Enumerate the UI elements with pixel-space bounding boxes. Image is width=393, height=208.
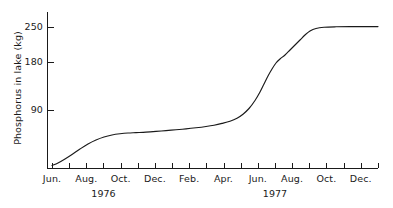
y-tick-label: 90 [31, 105, 43, 115]
y-tick-label: 250 [25, 22, 43, 32]
x-tick-label: Aug. [75, 174, 97, 184]
x-axis-year-label: 1977 [263, 189, 287, 199]
y-axis-ticks [48, 27, 54, 110]
x-tick-label: Jun. [249, 174, 267, 184]
x-tick-label: Dec. [350, 174, 372, 184]
phosphorus-chart: Phosphorus in lake (kg) 90180250 Jun.Aug… [0, 0, 393, 208]
x-axis-year-label: 1976 [91, 189, 115, 199]
x-tick-label: Feb. [179, 174, 199, 184]
x-tick-label: Jun. [43, 174, 61, 184]
x-tick-label: Dec. [144, 174, 166, 184]
x-tick-label: Oct. [111, 174, 131, 184]
x-tick-label: Apr. [214, 174, 233, 184]
y-tick-label: 180 [25, 57, 43, 67]
x-tick-label: Aug. [281, 174, 303, 184]
phosphorus-series-line [52, 27, 378, 166]
chart-axes [48, 12, 379, 169]
x-axis-ticks [53, 163, 379, 168]
x-tick-label: Oct. [316, 174, 336, 184]
